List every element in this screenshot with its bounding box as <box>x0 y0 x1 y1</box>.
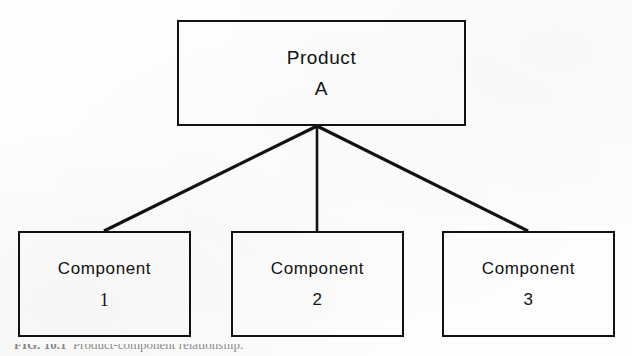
node-component-2-title: Component <box>271 260 364 277</box>
figure-caption-number: 10.1 <box>44 344 67 352</box>
figure-caption-text: FIG. 10.1 Product-component relationship… <box>14 344 614 353</box>
node-component-3-title: Component <box>482 260 575 277</box>
figure-caption-body: Product-component relationship. <box>73 344 243 352</box>
node-component-1-identifier: 1 <box>100 291 110 309</box>
node-component-3-identifier: 3 <box>523 291 533 308</box>
node-component-2-identifier: 2 <box>312 291 322 308</box>
figure-caption: FIG. 10.1 Product-component relationship… <box>14 344 614 356</box>
node-product-a: Product A <box>177 20 466 126</box>
node-component-2: Component 2 <box>231 231 404 337</box>
node-product-a-title: Product <box>287 48 357 67</box>
node-product-a-identifier: A <box>315 79 328 98</box>
node-component-3: Component 3 <box>442 231 615 337</box>
node-component-1-title: Component <box>58 260 151 277</box>
figure-caption-label: FIG. <box>14 344 40 352</box>
edge-product-to-component-3 <box>317 126 528 231</box>
figure-root: Product A Component 1 Component 2 Compon… <box>0 0 632 356</box>
node-component-1: Component 1 <box>18 231 191 337</box>
edge-product-to-component-1 <box>104 126 317 231</box>
